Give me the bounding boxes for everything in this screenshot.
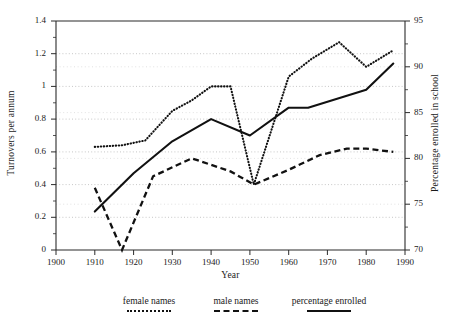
y-axis-right-title: Percentage enrolled in school bbox=[430, 53, 440, 213]
y-left-tick-0: 0 bbox=[12, 244, 46, 254]
legend-item-female-names: female names bbox=[104, 296, 194, 315]
y-right-tick-95: 95 bbox=[414, 15, 448, 25]
legend-label-male-names: male names bbox=[196, 296, 276, 306]
y-left-tick-1: 1 bbox=[12, 80, 46, 90]
x-tick-1940: 1940 bbox=[191, 257, 231, 267]
y-axis-left-title: Turnovers per annum bbox=[6, 73, 16, 193]
x-tick-1950: 1950 bbox=[230, 257, 270, 267]
y-left-tick-1.4: 1.4 bbox=[12, 15, 46, 25]
y-left-tick-0.2: 0.2 bbox=[12, 211, 46, 221]
x-tick-1920: 1920 bbox=[114, 257, 154, 267]
x-tick-1910: 1910 bbox=[75, 257, 115, 267]
legend-swatch-female-names bbox=[127, 310, 171, 315]
legend-label-percentage-enrolled: percentage enrolled bbox=[274, 296, 384, 306]
y-right-tick-70: 70 bbox=[414, 244, 448, 254]
legend-swatch-percentage-enrolled bbox=[307, 310, 351, 315]
x-tick-1990: 1990 bbox=[385, 257, 425, 267]
x-tick-1980: 1980 bbox=[346, 257, 386, 267]
series-male-names bbox=[95, 149, 394, 250]
x-axis-title: Year bbox=[56, 270, 405, 280]
x-tick-1970: 1970 bbox=[307, 257, 347, 267]
y-left-tick-0.6: 0.6 bbox=[12, 146, 46, 156]
x-axis-ticks bbox=[56, 250, 405, 255]
chart-plot-area bbox=[0, 0, 467, 331]
x-tick-1930: 1930 bbox=[152, 257, 192, 267]
gridlines bbox=[56, 54, 405, 218]
y-left-tick-0.8: 0.8 bbox=[12, 113, 46, 123]
legend-item-male-names: male names bbox=[196, 296, 276, 315]
series-female-names bbox=[95, 42, 394, 184]
chart-figure: 1.4 1.2 1 0.8 0.6 0.4 0.2 0 95 90 85 80 … bbox=[0, 0, 467, 331]
y-left-tick-1.2: 1.2 bbox=[12, 48, 46, 58]
legend-label-female-names: female names bbox=[104, 296, 194, 306]
legend-item-percentage-enrolled: percentage enrolled bbox=[274, 296, 384, 315]
legend-swatch-male-names bbox=[214, 310, 258, 315]
x-tick-1900: 1900 bbox=[36, 257, 76, 267]
y-left-tick-0.4: 0.4 bbox=[12, 179, 46, 189]
x-tick-1960: 1960 bbox=[269, 257, 309, 267]
chart-legend: female names male names percentage enrol… bbox=[0, 296, 467, 330]
series-percentage-enrolled bbox=[95, 64, 394, 212]
